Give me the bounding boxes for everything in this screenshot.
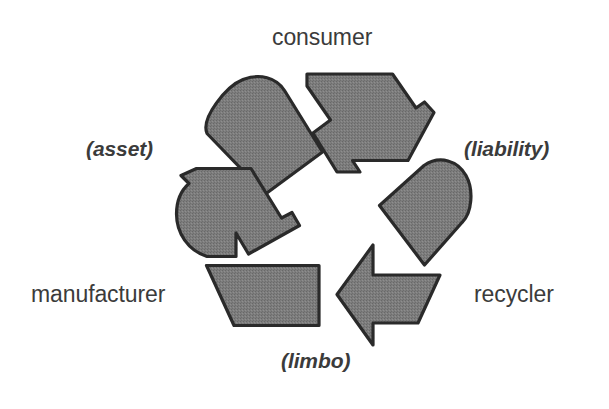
recycling-symbol — [0, 0, 609, 409]
label-liability: (liability) — [464, 138, 549, 159]
arrow-trapezoid-manufacturer — [207, 266, 320, 326]
arrow-top-consumer-to-liability — [307, 74, 434, 172]
recycling-symbol-svg — [0, 0, 609, 409]
label-consumer: consumer — [272, 26, 372, 49]
arrow-fold-right — [380, 160, 471, 265]
label-asset: (asset) — [86, 138, 153, 159]
diagram-canvas: consumer (asset) (liability) manufacture… — [0, 0, 609, 409]
label-recycler: recycler — [474, 283, 554, 306]
label-limbo: (limbo) — [281, 350, 350, 371]
arrow-left-manufacturer-to-asset — [177, 169, 300, 257]
arrow-fold-upper-left — [206, 77, 323, 194]
label-manufacturer: manufacturer — [31, 283, 165, 306]
arrow-bottom-recycler-to-limbo — [337, 245, 440, 345]
